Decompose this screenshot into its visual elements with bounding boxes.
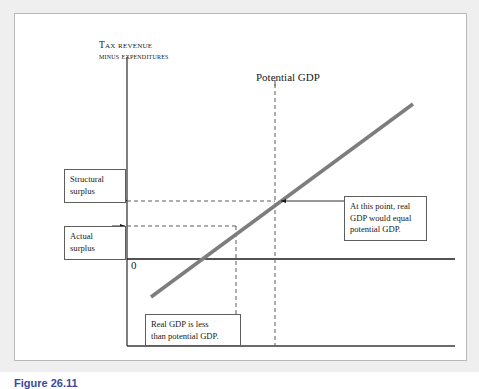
origin-zero-label: 0 — [131, 259, 137, 272]
y-axis-title-line1: Tax revenue — [99, 40, 152, 51]
figure-caption: Figure 26.11 — [14, 377, 78, 389]
figure-panel: Tax revenue minus expenditures Real GDP … — [14, 13, 467, 361]
callout-structural-surplus: Structural surplus — [64, 169, 126, 203]
y-axis-title-line2: minus expenditures — [99, 52, 169, 61]
potential-gdp-label: Potential GDP — [256, 71, 320, 84]
callout-real-gdp-less: Real GDP is less than potential GDP. — [145, 314, 241, 346]
callout-actual-surplus: Actual surplus — [64, 226, 126, 260]
figure-page: Tax revenue minus expenditures Real GDP … — [0, 0, 479, 389]
callout-at-this-point: At this point, real GDP would equal pote… — [344, 196, 427, 241]
